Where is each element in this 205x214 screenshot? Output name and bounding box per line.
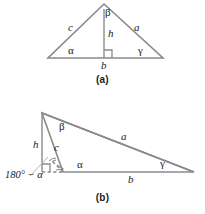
right-angle-marker-a xyxy=(104,50,112,58)
right-angle-marker-b xyxy=(42,164,50,172)
label-side-a-a: a xyxy=(134,22,140,33)
label-side-c-b: c xyxy=(54,142,59,153)
label-side-b-b: b xyxy=(128,174,134,185)
caption-panel-b: (b) xyxy=(0,192,205,203)
label-angle-gamma-a: γ xyxy=(138,45,143,56)
label-angle-gamma-b: γ xyxy=(160,158,165,169)
label-side-a-b: a xyxy=(121,131,127,142)
label-side-b-a: b xyxy=(101,60,107,71)
label-angle-alpha-a: α xyxy=(68,45,74,56)
label-angle-alpha-b: α xyxy=(77,159,83,170)
caption-panel-a: (a) xyxy=(0,74,205,85)
label-exterior-angle-b: 180° − α xyxy=(5,170,43,181)
angle-arc-alpha-b xyxy=(52,160,56,162)
label-altitude-h-a: h xyxy=(108,28,114,39)
diagram-canvas xyxy=(0,0,205,214)
figure-root: c a b h α β γ (a) h c a b β α γ 180° − α… xyxy=(0,0,205,214)
label-altitude-h-b: h xyxy=(33,139,39,150)
label-angle-beta-b: β xyxy=(59,121,65,132)
label-angle-beta-a: β xyxy=(105,7,111,18)
label-side-c-a: c xyxy=(68,22,73,33)
